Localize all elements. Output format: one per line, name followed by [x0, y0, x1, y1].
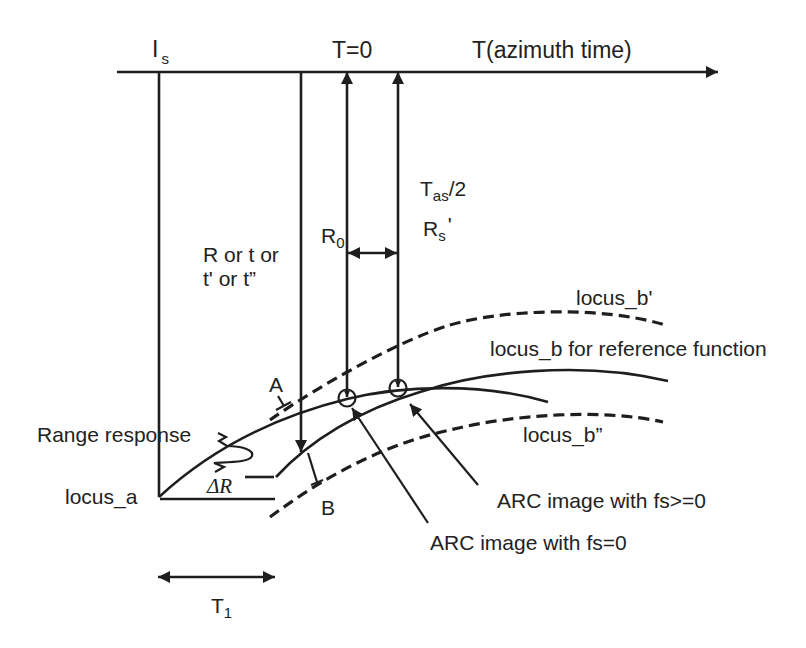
is-label: Is [152, 36, 169, 67]
point-a-stem [278, 396, 284, 406]
locus-b-double-prime-label: locus_b” [523, 423, 602, 447]
locus-b-reference-curve [276, 370, 668, 477]
sar-range-migration-diagram: T(azimuth time) T=0 Is R or t or t' or t… [0, 0, 806, 648]
tas-half-label: Tas/2 [420, 177, 466, 204]
arc-fsge0-label: ARC image with fs>=0 [497, 489, 706, 512]
is-label-main: I [152, 36, 158, 62]
range-axis-label-line1: R or t or [203, 243, 279, 266]
t0-label: T=0 [332, 37, 372, 63]
axis-title: T(azimuth time) [472, 37, 632, 63]
locus-b-label: locus_b for reference function [490, 337, 767, 361]
rs-prime-label: Rs' [423, 213, 452, 244]
locus-a-label: locus_a [65, 485, 138, 509]
arc-fs0-pointer [352, 408, 428, 523]
arc-fs0-label: ARC image with fs=0 [430, 531, 627, 554]
range-axis-label-line2: t' or t” [203, 267, 256, 290]
point-b-stem [308, 453, 317, 482]
r0-label: R0 [321, 224, 345, 251]
point-b-label: B [321, 496, 335, 519]
t1-label: T1 [211, 594, 232, 621]
delta-r-label: ΔR [206, 474, 232, 498]
arc-fsge0-pointer [410, 404, 478, 485]
locus-b-prime-label: locus_b' [576, 286, 652, 310]
point-a-label: A [269, 373, 283, 396]
is-label-sub: s [161, 50, 169, 67]
range-response-label: Range response [37, 423, 191, 446]
